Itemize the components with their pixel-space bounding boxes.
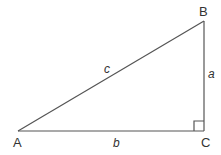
side-label-c: c bbox=[104, 62, 110, 76]
right-angle-marker-icon bbox=[194, 121, 204, 131]
vertex-label-b: B bbox=[199, 4, 208, 19]
side-c-hypotenuse bbox=[18, 21, 204, 131]
vertex-label-c: C bbox=[201, 135, 210, 150]
side-label-b: b bbox=[113, 136, 120, 150]
triangle-diagram: A B C c a b bbox=[0, 0, 221, 155]
vertex-label-a: A bbox=[13, 135, 22, 150]
side-label-a: a bbox=[208, 67, 215, 81]
